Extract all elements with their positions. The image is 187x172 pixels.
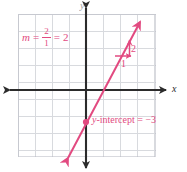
rise-label: 2 [131, 44, 136, 54]
slope-symbol: m [22, 32, 30, 43]
graph-figure: m = 2 1 = 2 2 1 y-intercept = −3 x y [0, 0, 187, 172]
slope-value: 2 [63, 32, 69, 43]
slope-label: m = 2 1 = 2 [22, 27, 68, 48]
slope-denominator: 1 [42, 39, 51, 48]
y-intercept-label: y-intercept = −3 [92, 115, 156, 125]
y-intercept-point [83, 119, 89, 125]
slope-fraction: 2 1 [42, 27, 51, 48]
y-axis-label: y [80, 1, 84, 11]
run-label: 1 [121, 59, 126, 69]
slope-equals-first: = [33, 32, 39, 43]
x-axis-label: x [172, 84, 176, 94]
axes-and-line [0, 0, 187, 172]
slope-numerator: 2 [42, 27, 51, 36]
slope-equals-second: = [54, 32, 60, 43]
y-intercept-text: -intercept = −3 [96, 114, 156, 125]
